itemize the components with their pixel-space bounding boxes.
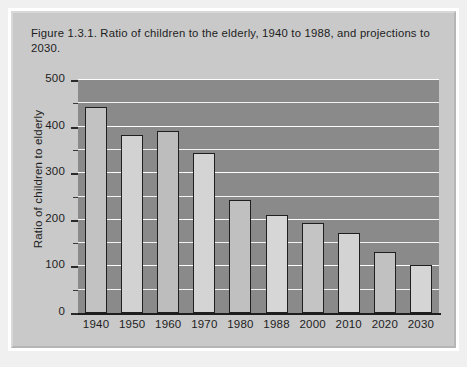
y-axis-tick-major: [71, 220, 78, 222]
bar: [229, 200, 251, 313]
y-axis-tick-minor: [73, 290, 78, 291]
y-axis-label: 300: [13, 165, 65, 177]
bar: [302, 223, 324, 313]
y-axis-tick-minor: [73, 150, 78, 151]
gridline: [78, 79, 439, 80]
figure-frame: Figure 1.3.1. Ratio of children to the e…: [0, 0, 467, 367]
y-axis-label: 500: [13, 72, 65, 84]
y-axis-label: 100: [13, 258, 65, 270]
y-axis-label: 0: [13, 305, 65, 317]
bar: [157, 131, 179, 313]
plot-area: [78, 80, 439, 313]
figure-caption: Figure 1.3.1. Ratio of children to the e…: [31, 26, 431, 56]
y-axis-tick-minor: [73, 103, 78, 104]
y-axis-tick-minor: [73, 243, 78, 244]
y-axis-tick-major: [71, 266, 78, 268]
bar: [410, 265, 432, 313]
gridline: [78, 126, 439, 127]
y-axis-tick-major: [71, 80, 78, 82]
x-axis-line: [71, 313, 441, 315]
bar: [193, 153, 215, 313]
y-axis-tick-major: [71, 313, 78, 315]
y-axis-title: Ratio of children to elderly: [32, 79, 44, 279]
bar: [266, 215, 288, 313]
y-axis-tick-major: [71, 173, 78, 175]
y-axis-tick-minor: [73, 197, 78, 198]
x-axis-label: 2030: [400, 318, 442, 330]
y-axis-label: 200: [13, 212, 65, 224]
bar: [338, 233, 360, 313]
bar: [374, 252, 396, 313]
gridline: [78, 102, 439, 103]
bar: [121, 135, 143, 313]
y-axis-tick-major: [71, 127, 78, 129]
bar: [85, 107, 107, 313]
y-axis-label: 400: [13, 119, 65, 131]
figure-card: Figure 1.3.1. Ratio of children to the e…: [11, 11, 456, 348]
